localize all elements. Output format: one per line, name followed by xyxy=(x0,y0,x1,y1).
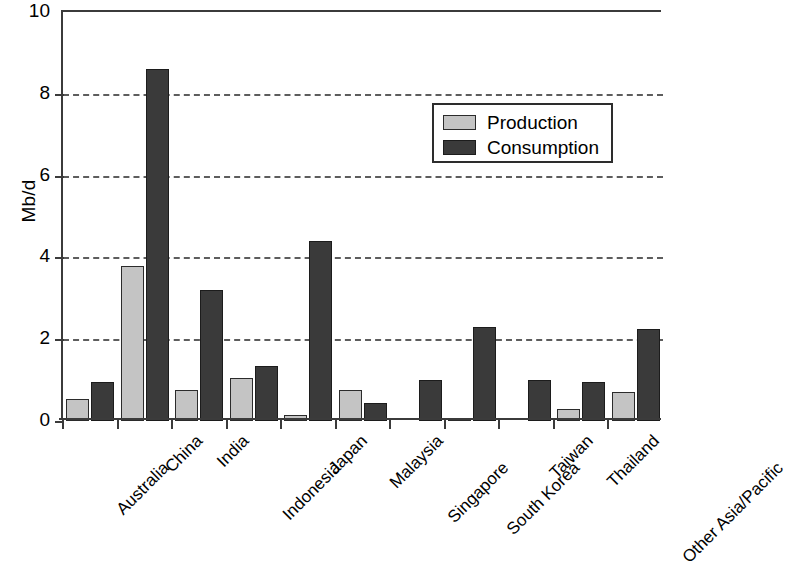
y-axis-tick-label: 0 xyxy=(6,410,50,429)
x-axis-tick-label-text: China xyxy=(162,432,205,475)
x-axis-tick-label-text: India xyxy=(214,432,252,470)
bar-consumption xyxy=(146,69,169,421)
x-axis-tick-label: Japan xyxy=(326,432,371,477)
y-axis-title: Mb/d xyxy=(18,146,40,256)
bar-consumption xyxy=(528,380,551,421)
x-axis-tick-label: Singapore xyxy=(444,459,511,526)
bar-production xyxy=(339,390,362,421)
bar-consumption xyxy=(309,241,332,421)
x-axis-tick-label-text: Australia xyxy=(114,459,173,518)
y-axis-tick xyxy=(55,176,64,178)
y-axis-tick xyxy=(55,257,64,259)
plot-area xyxy=(61,10,661,419)
bar-consumption xyxy=(419,380,442,421)
legend-item-consumption: Consumption xyxy=(443,135,611,160)
x-axis-tick-label-text: Singapore xyxy=(444,459,511,526)
x-axis-tick-label: Thailand xyxy=(604,432,662,490)
y-axis-tick-label: 6 xyxy=(6,165,50,184)
bar-production xyxy=(612,392,635,421)
bar-production xyxy=(175,390,198,421)
x-axis-tick-label: China xyxy=(162,432,205,475)
y-axis-tick xyxy=(55,421,64,423)
legend-label-consumption: Consumption xyxy=(487,138,599,157)
legend-swatch-consumption-icon xyxy=(443,140,476,155)
y-axis-tick-label: 2 xyxy=(6,328,50,347)
chart-legend: Production Consumption xyxy=(432,103,613,163)
bar-consumption xyxy=(91,382,114,421)
y-axis-tick-label: 8 xyxy=(6,83,50,102)
bar-consumption xyxy=(255,366,278,421)
x-axis-tick-label-text: Thailand xyxy=(604,432,662,490)
bar-consumption xyxy=(473,327,496,421)
y-axis-tick-label: 10 xyxy=(6,1,50,20)
bar-consumption xyxy=(637,329,660,421)
y-axis-tick xyxy=(55,339,64,341)
x-axis-tick-label-text: South Korea xyxy=(504,459,583,538)
bar-production xyxy=(230,378,253,421)
x-axis-tick-label-text: Malaysia xyxy=(387,432,446,491)
bar-production xyxy=(121,266,144,421)
bar-consumption xyxy=(582,382,605,421)
legend-label-production: Production xyxy=(487,113,578,132)
bar-consumption xyxy=(200,290,223,421)
x-axis-line xyxy=(59,418,661,420)
y-axis-tick xyxy=(55,94,64,96)
legend-item-production: Production xyxy=(443,110,611,135)
legend-swatch-production-icon xyxy=(443,115,476,130)
x-axis-tick-label: Malaysia xyxy=(387,432,446,491)
x-axis-tick-label: Australia xyxy=(114,459,173,518)
x-axis-tick-label: Other Asia/Pacific xyxy=(679,459,786,565)
x-axis-tick-label-text: Japan xyxy=(326,432,371,477)
y-axis-tick-label: 4 xyxy=(6,246,50,265)
x-axis-tick-label: India xyxy=(214,432,252,470)
x-axis-tick-label: South Korea xyxy=(504,459,583,538)
x-axis-tick-label-text: Other Asia/Pacific xyxy=(679,459,786,565)
